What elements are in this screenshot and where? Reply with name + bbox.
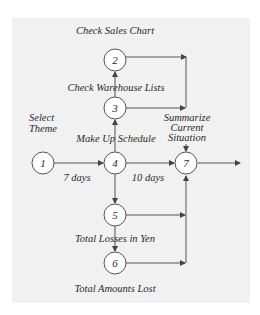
label-check-sales-chart: Check Sales Chart	[76, 25, 154, 36]
node-3-label: 3	[111, 102, 118, 114]
label-check-warehouse-lists: Check Warehouse Lists	[67, 82, 164, 93]
label-make-up-schedule: Make Up Schedule	[76, 133, 155, 144]
label-summarize-3: Situation	[168, 132, 206, 143]
network-diagram: 1 2 3 4 5 6 7	[0, 0, 260, 315]
node-4-label: 4	[112, 157, 118, 169]
node-5-label: 5	[112, 209, 118, 221]
label-select-theme-1: Select	[29, 112, 54, 123]
label-total-amounts-lost: Total Amounts Lost	[74, 283, 155, 294]
label-seven-days: 7 days	[63, 172, 90, 183]
node-2-label: 2	[112, 54, 118, 66]
node-7-label: 7	[183, 157, 189, 169]
label-total-losses-in-yen: Total Losses in Yen	[75, 233, 155, 244]
node-6-label: 6	[112, 257, 118, 269]
label-select-theme-2: Theme	[29, 123, 57, 134]
node-1-label: 1	[40, 157, 46, 169]
label-ten-days: 10 days	[132, 172, 164, 183]
